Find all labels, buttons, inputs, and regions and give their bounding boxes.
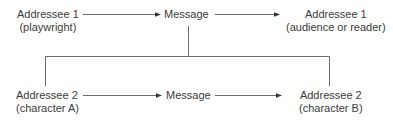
node-label: Message — [164, 8, 209, 21]
node-label: Addressee 1 — [17, 8, 79, 21]
node-addressee1-audience: Addressee 1 (audience or reader) — [286, 8, 386, 34]
node-label: Addressee 2 — [16, 89, 79, 102]
node-sublabel: (audience or reader) — [286, 21, 386, 34]
node-sublabel: (character B) — [299, 102, 363, 115]
node-label: Addressee 1 — [286, 8, 386, 21]
node-label: Message — [166, 89, 211, 102]
node-message-bottom: Message — [166, 89, 211, 102]
node-addressee1-playwright: Addressee 1 (playwright) — [17, 8, 79, 34]
node-sublabel: (playwright) — [17, 21, 79, 34]
node-addressee2-character-b: Addressee 2 (character B) — [299, 89, 363, 115]
node-sublabel: (character A) — [16, 102, 79, 115]
node-label: Addressee 2 — [299, 89, 363, 102]
node-message-top: Message — [164, 8, 209, 21]
node-addressee2-character-a: Addressee 2 (character A) — [16, 89, 79, 115]
